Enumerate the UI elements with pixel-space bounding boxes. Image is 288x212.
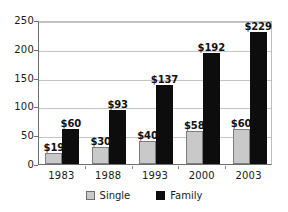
x-axis-tick-mark [132, 166, 133, 169]
bar-value-label: $192 [198, 42, 225, 53]
plot-area: $19$60$30$93$40$137$58$192$60$229 [38, 21, 272, 165]
bar-value-label: $58 [184, 120, 205, 131]
bar-family-1983: $60 [62, 129, 79, 164]
bar-family-2000: $192 [203, 53, 220, 164]
bar-single-1983: $19 [45, 153, 62, 164]
bar-value-label: $229 [244, 21, 271, 32]
y-axis-tick-label: 200 [4, 45, 34, 55]
square-swatch-black-icon [156, 191, 165, 200]
bar-chart: 050100150200250 $19$60$30$93$40$137$58$1… [0, 0, 288, 212]
y-axis-tick-label: 100 [4, 102, 34, 112]
bar-value-label: $60 [61, 118, 82, 129]
y-axis-tick-mark [34, 165, 38, 166]
bar-group: $19$60 [45, 20, 79, 164]
bar-value-label: $93 [107, 99, 128, 110]
x-axis-tick-mark [178, 166, 179, 169]
y-axis-tick-label: 150 [4, 74, 34, 84]
y-axis-tick-label: 250 [4, 16, 34, 26]
bar-value-label: $60 [231, 118, 252, 129]
y-axis-tick-label: 50 [4, 131, 34, 141]
legend-item-family[interactable]: Family [156, 190, 202, 201]
legend-label: Family [170, 190, 202, 201]
chart-legend: SingleFamily [0, 190, 288, 201]
bar-group: $58$192 [186, 20, 220, 164]
bar-single-1988: $30 [92, 147, 109, 164]
bar-value-label: $137 [151, 74, 178, 85]
legend-label: Single [100, 190, 131, 201]
x-axis-tick-label: 2003 [219, 170, 279, 181]
bar-value-label: $19 [44, 142, 65, 153]
bar-value-label: $40 [137, 130, 158, 141]
x-axis-tick-mark [85, 166, 86, 169]
legend-item-single[interactable]: Single [86, 190, 131, 201]
bar-single-1993: $40 [139, 141, 156, 164]
bar-group: $60$229 [233, 20, 267, 164]
bar-value-label: $30 [90, 136, 111, 147]
bar-family-2003: $229 [250, 32, 267, 164]
bar-family-1988: $93 [109, 110, 126, 164]
bar-group: $30$93 [92, 20, 126, 164]
square-swatch-gray-icon [86, 191, 95, 200]
y-axis-tick-label: 0 [4, 160, 34, 170]
bar-single-2000: $58 [186, 131, 203, 164]
x-axis-tick-mark [225, 166, 226, 169]
bar-family-1993: $137 [156, 85, 173, 164]
bar-single-2003: $60 [233, 129, 250, 164]
bar-group: $40$137 [139, 20, 173, 164]
